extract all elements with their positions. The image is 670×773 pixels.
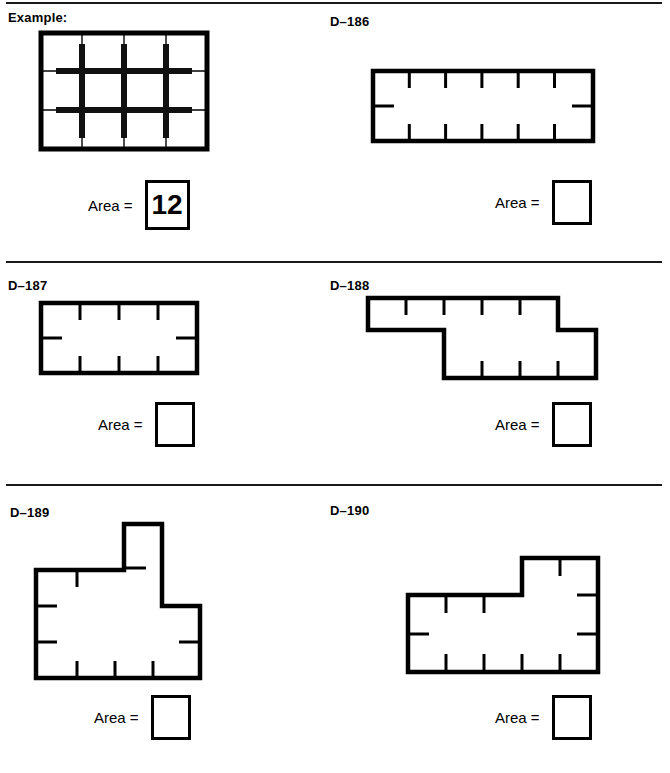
figure-d189 [33, 521, 203, 681]
area-row-d189: Area = [94, 695, 191, 740]
panel-label-d187: D–187 [8, 278, 47, 293]
panel-label-example: Example: [8, 10, 67, 25]
area-answer-box-example[interactable]: 12 [145, 180, 190, 230]
figure-example [38, 30, 210, 152]
panel-label-d190: D–190 [330, 503, 369, 518]
figure-d187 [38, 300, 203, 382]
area-label-d188: Area = [495, 416, 540, 433]
panel-d189: D–189 [0, 484, 335, 773]
area-label-d186: Area = [495, 194, 540, 211]
panel-d188: D–188 Area = [325, 261, 670, 484]
area-row-d188: Area = [495, 402, 592, 447]
panel-label-d189: D–189 [10, 505, 49, 520]
area-answer-box-d187[interactable] [155, 402, 195, 447]
figure-d188 [365, 295, 615, 385]
panel-label-d186: D–186 [330, 14, 369, 29]
area-label-example: Area = [88, 197, 133, 214]
shape-outline-d190 [408, 558, 598, 672]
area-label-d187: Area = [98, 416, 143, 433]
area-row-example: Area = 12 [88, 180, 190, 230]
figure-d190 [405, 555, 610, 680]
panel-label-d188: D–188 [330, 278, 369, 293]
figure-d186 [370, 68, 600, 150]
area-answer-box-d186[interactable] [552, 180, 592, 225]
shape-outline-d189 [36, 524, 200, 678]
panel-d190: D–190 [325, 484, 670, 773]
area-row-d187: Area = [98, 402, 195, 447]
panel-d186: D–186 [325, 0, 670, 261]
area-label-d190: Area = [495, 709, 540, 726]
area-label-d189: Area = [94, 709, 139, 726]
area-answer-box-d189[interactable] [151, 695, 191, 740]
worksheet-page: Example: [0, 0, 670, 773]
panel-d187: D–187 Area = [0, 261, 335, 484]
area-row-d190: Area = [495, 695, 592, 740]
panel-example: Example: [0, 0, 335, 261]
area-answer-box-d190[interactable] [552, 695, 592, 740]
area-row-d186: Area = [495, 180, 592, 225]
area-answer-box-d188[interactable] [552, 402, 592, 447]
